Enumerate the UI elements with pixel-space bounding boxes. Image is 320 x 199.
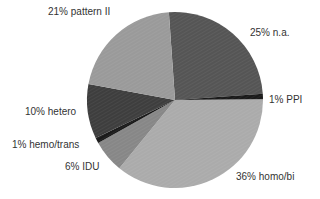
pie-slices	[87, 12, 263, 188]
slice-hatch	[169, 12, 263, 100]
label-pattern-ii: 21% pattern II	[48, 6, 110, 18]
label-ppi: 1% PPI	[269, 94, 302, 106]
label-hetero: 10% hetero	[25, 106, 76, 118]
label-hemo-trans: 1% hemo/trans	[12, 139, 79, 151]
label-homo-bi: 36% homo/bi	[236, 171, 294, 183]
label-idu: 6% IDU	[65, 161, 99, 173]
label-na: 25% n.a.	[250, 27, 289, 39]
